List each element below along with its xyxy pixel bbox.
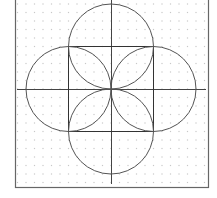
grid-dot [136, 29, 137, 30]
grid-dot [102, 165, 103, 166]
grid-dot [25, 29, 26, 30]
grid-dot [127, 139, 128, 140]
grid-dot [195, 54, 196, 55]
grid-dot [93, 63, 94, 64]
grid-dot [25, 156, 26, 157]
grid-dot [25, 148, 26, 149]
grid-dot [170, 165, 171, 166]
grid-dot [127, 63, 128, 64]
grid-dot [76, 148, 77, 149]
grid-dot [42, 131, 43, 132]
grid-dot [178, 131, 179, 132]
grid-dot [187, 3, 188, 4]
grid-dot [25, 182, 26, 183]
grid-dot [127, 20, 128, 21]
grid-dot [195, 114, 196, 115]
grid-dot [51, 122, 52, 123]
grid-dot [17, 71, 18, 72]
grid-dot [195, 37, 196, 38]
grid-dot [102, 12, 103, 13]
grid-dot [136, 122, 137, 123]
grid-dot [25, 131, 26, 132]
grid-dot [161, 165, 162, 166]
grid-dot [34, 71, 35, 72]
grid-dot [51, 165, 52, 166]
grid-dot [76, 54, 77, 55]
grid-dot [161, 173, 162, 174]
grid-dot [119, 12, 120, 13]
grid-dot [93, 29, 94, 30]
grid-dot [144, 80, 145, 81]
grid-dot [204, 12, 205, 13]
grid-dot [102, 29, 103, 30]
grid-dot [119, 54, 120, 55]
grid-dot [178, 3, 179, 4]
grid-dot [136, 173, 137, 174]
grid-dot [34, 165, 35, 166]
grid-dot [102, 37, 103, 38]
grid-dot [178, 20, 179, 21]
grid-dot [102, 139, 103, 140]
grid-dot [204, 139, 205, 140]
grid-dot [93, 80, 94, 81]
grid-dot [85, 3, 86, 4]
grid-dot [51, 46, 52, 47]
grid-dot [161, 156, 162, 157]
grid-dot [59, 12, 60, 13]
grid-dot [34, 97, 35, 98]
grid-dot [119, 20, 120, 21]
grid-dot [187, 29, 188, 30]
grid-dot [204, 182, 205, 183]
grid-dot [119, 122, 120, 123]
grid-dot [59, 63, 60, 64]
grid-dot [204, 20, 205, 21]
grid-dot [42, 148, 43, 149]
grid-dot [127, 148, 128, 149]
geometry-diagram [0, 0, 217, 198]
grid-dot [59, 80, 60, 81]
grid-dot [161, 97, 162, 98]
grid-dot [195, 156, 196, 157]
grid-dot [17, 3, 18, 4]
grid-dot [119, 97, 120, 98]
grid-dot [136, 37, 137, 38]
grid-dot [25, 122, 26, 123]
grid-dot [34, 12, 35, 13]
grid-dot [178, 148, 179, 149]
grid-dot [127, 114, 128, 115]
grid-dot [127, 37, 128, 38]
grid-dot [25, 54, 26, 55]
grid-dot [187, 12, 188, 13]
grid-dot [187, 54, 188, 55]
grid-dot [204, 122, 205, 123]
grid-dot [76, 122, 77, 123]
grid-dot [25, 71, 26, 72]
grid-dot [178, 139, 179, 140]
grid-dot [136, 54, 137, 55]
grid-dot [76, 37, 77, 38]
grid-dot [170, 20, 171, 21]
grid-dot [59, 156, 60, 157]
grid-dot [119, 182, 120, 183]
grid-dot [161, 122, 162, 123]
grid-dot [51, 63, 52, 64]
grid-dot [119, 156, 120, 157]
grid-dot [119, 139, 120, 140]
grid-dot [161, 37, 162, 38]
grid-dot [119, 37, 120, 38]
grid-dot [136, 3, 137, 4]
grid-dot [42, 71, 43, 72]
grid-dot [17, 54, 18, 55]
grid-dot [85, 139, 86, 140]
grid-dot [51, 139, 52, 140]
grid-dot [68, 173, 69, 174]
grid-dot [25, 114, 26, 115]
grid-dot [195, 71, 196, 72]
grid-dot [170, 114, 171, 115]
grid-dot [59, 173, 60, 174]
grid-dot [93, 173, 94, 174]
grid-dot [17, 80, 18, 81]
grid-dot [170, 71, 171, 72]
grid-dot [42, 105, 43, 106]
grid-dot [34, 131, 35, 132]
